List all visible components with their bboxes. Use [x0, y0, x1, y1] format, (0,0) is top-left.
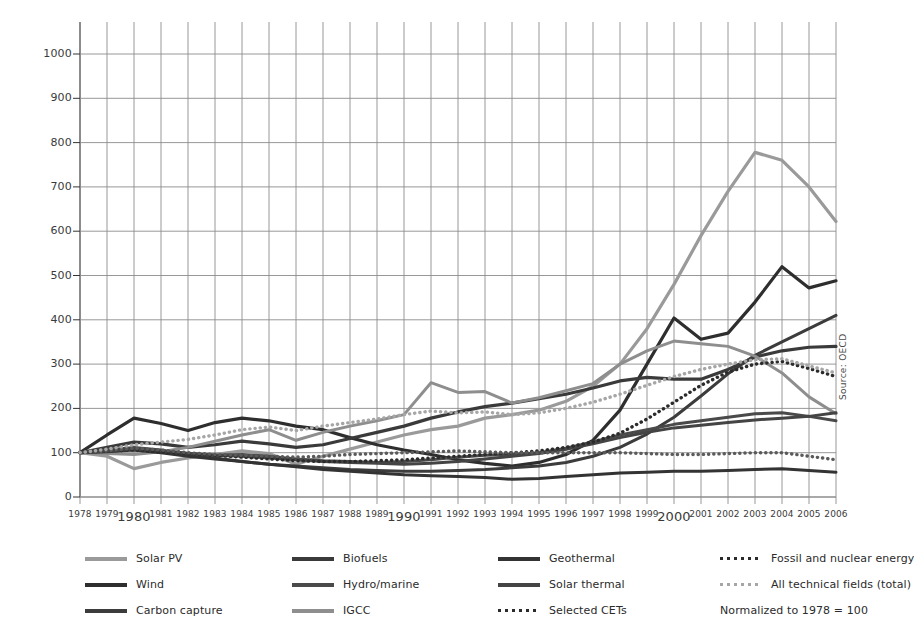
legend-item-fossil-and-nuclear-energy[interactable]: Fossil and nuclear energy: [720, 552, 914, 565]
x-tick-2006: 2006: [814, 509, 858, 519]
y-tick-1000: 1000: [24, 47, 72, 60]
line-swatch-icon: [292, 557, 334, 561]
dotted-line-swatch-icon: [720, 583, 762, 587]
legend-label: Selected CETs: [549, 604, 627, 617]
legend-item-carbon-capture[interactable]: Carbon capture: [85, 604, 223, 617]
legend-label: Geothermal: [549, 552, 615, 565]
line-swatch-icon: [498, 557, 540, 561]
y-tick-900: 900: [24, 91, 72, 104]
line-swatch-icon: [85, 557, 127, 561]
line-swatch-icon: [85, 609, 127, 613]
y-tick-200: 200: [24, 401, 72, 414]
legend-item-wind[interactable]: Wind: [85, 578, 164, 591]
line-swatch-icon: [292, 583, 334, 587]
legend-label: Solar thermal: [549, 578, 625, 591]
legend-item-solar-thermal[interactable]: Solar thermal: [498, 578, 625, 591]
dotted-line-swatch-icon: [720, 557, 762, 561]
normalization-note-text: Normalized to 1978 = 100: [720, 604, 868, 617]
legend-item-igcc[interactable]: IGCC: [292, 604, 371, 617]
dot-run: [720, 583, 762, 586]
line-swatch-icon: [85, 583, 127, 587]
y-tick-0: 0: [24, 490, 72, 503]
dot-run: [498, 609, 540, 612]
y-tick-800: 800: [24, 136, 72, 149]
legend-label: Solar PV: [136, 552, 183, 565]
line-swatch-icon: [498, 583, 540, 587]
legend-item-biofuels[interactable]: Biofuels: [292, 552, 388, 565]
dot-run: [720, 557, 762, 560]
chart-legend: Solar PVBiofuelsGeothermalFossil and nuc…: [60, 552, 880, 632]
legend-item-all-technical-fields-total[interactable]: All technical fields (total): [720, 578, 911, 591]
legend-label: Hydro/marine: [343, 578, 419, 591]
legend-label: Fossil and nuclear energy: [771, 552, 914, 565]
y-tick-100: 100: [24, 446, 72, 459]
y-tick-700: 700: [24, 180, 72, 193]
legend-label: IGCC: [343, 604, 371, 617]
legend-label: Carbon capture: [136, 604, 223, 617]
y-tick-600: 600: [24, 224, 72, 237]
legend-normalization-note: Normalized to 1978 = 100: [720, 604, 868, 617]
legend-label: Biofuels: [343, 552, 388, 565]
source-note: Source: OECD: [838, 334, 848, 400]
legend-item-selected-cets[interactable]: Selected CETs: [498, 604, 627, 617]
dotted-line-swatch-icon: [498, 609, 540, 613]
y-tick-300: 300: [24, 357, 72, 370]
legend-label: All technical fields (total): [771, 578, 911, 591]
legend-label: Wind: [136, 578, 164, 591]
legend-item-solar-pv[interactable]: Solar PV: [85, 552, 183, 565]
legend-item-hydro-marine[interactable]: Hydro/marine: [292, 578, 419, 591]
line-swatch-icon: [292, 609, 334, 613]
y-tick-500: 500: [24, 269, 72, 282]
y-tick-400: 400: [24, 313, 72, 326]
legend-item-geothermal[interactable]: Geothermal: [498, 552, 615, 565]
